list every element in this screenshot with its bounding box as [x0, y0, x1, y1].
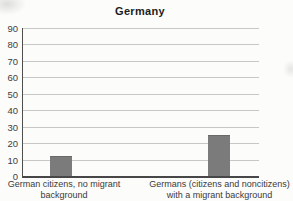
- gridline: [23, 110, 259, 111]
- gridline: [23, 77, 259, 78]
- gridline: [23, 28, 259, 29]
- y-tick-label: 20: [7, 139, 18, 148]
- chart-title: Germany: [22, 5, 258, 17]
- y-axis: 0102030405060708090: [0, 28, 19, 176]
- bar-2: [208, 135, 230, 176]
- plot-area: [22, 28, 259, 178]
- y-tick-label: 30: [7, 122, 18, 131]
- y-tick-label: 40: [7, 106, 18, 115]
- gridline: [23, 61, 259, 62]
- scan-artifact-right: [283, 60, 293, 78]
- y-tick-label: 60: [7, 73, 18, 82]
- y-tick-label: 10: [7, 155, 18, 164]
- x-category-label-1: German citizens, no migrantbackground: [0, 179, 128, 200]
- y-tick-label: 50: [7, 89, 18, 98]
- x-axis-labels: German citizens, no migrantbackgroundGer…: [0, 179, 293, 201]
- y-tick-label: 90: [7, 24, 18, 33]
- x-category-label-2: Germans (citizens and noncitizens)with a…: [146, 179, 293, 200]
- y-tick-label: 70: [7, 56, 18, 65]
- gridline: [23, 44, 259, 45]
- bar-1: [50, 156, 72, 176]
- y-tick-label: 80: [7, 40, 18, 49]
- gridline: [23, 94, 259, 95]
- gridline: [23, 127, 259, 128]
- chart-card: Germany 0102030405060708090 German citiz…: [0, 0, 293, 201]
